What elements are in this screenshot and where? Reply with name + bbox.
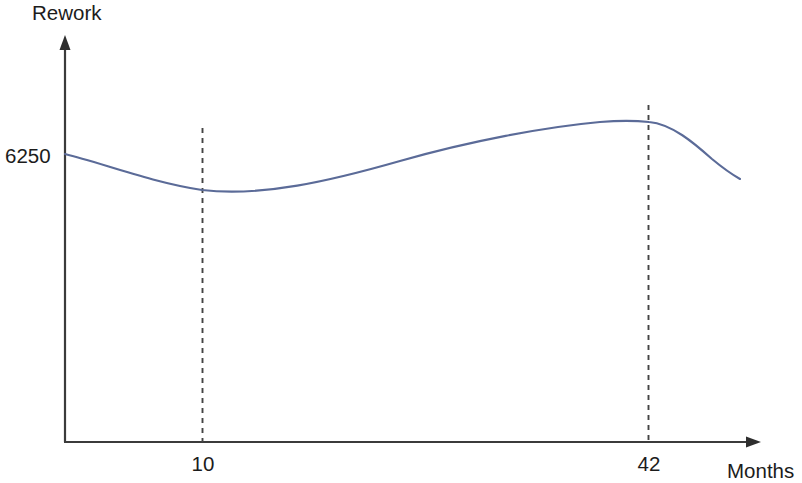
y-axis-arrow-icon bbox=[60, 35, 71, 50]
x-tick-label-42: 42 bbox=[638, 452, 661, 475]
x-tick-label-10: 10 bbox=[192, 452, 215, 475]
chart-container: Rework 6250 10 42 Months bbox=[0, 0, 802, 483]
y-axis-value-label: 6250 bbox=[5, 144, 51, 167]
rework-curve bbox=[65, 121, 740, 192]
x-axis-arrow-icon bbox=[746, 437, 761, 448]
x-axis-title: Months bbox=[727, 459, 794, 482]
y-axis-title: Rework bbox=[32, 1, 102, 24]
rework-vs-months-line-chart: Rework 6250 10 42 Months bbox=[0, 0, 802, 483]
